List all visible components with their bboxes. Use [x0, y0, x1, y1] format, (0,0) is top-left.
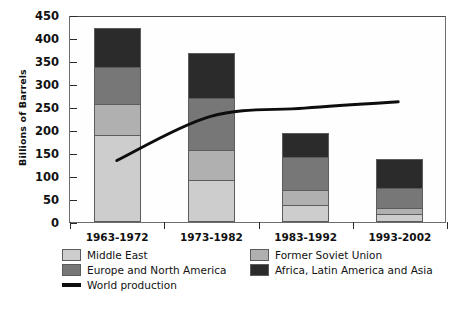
y-tick-label: 200: [35, 124, 59, 138]
legend-row: Middle EastFormer Soviet Union: [62, 249, 454, 261]
y-tick-label: 0: [51, 216, 59, 230]
y-tick-label: 450: [35, 9, 59, 23]
legend-label: Europe and North America: [87, 264, 226, 276]
legend-color-swatch: [62, 249, 81, 261]
y-tick-label: 400: [35, 32, 59, 46]
legend-item[interactable]: Former Soviet Union: [250, 249, 382, 261]
legend-label: Former Soviet Union: [275, 249, 382, 261]
y-tick-label: 150: [35, 147, 59, 161]
legend-row: World production: [62, 279, 454, 291]
legend-label: Africa, Latin America and Asia: [275, 264, 433, 276]
y-tick-label: 250: [35, 101, 59, 115]
x-tick-mark: [259, 222, 260, 229]
y-tick-label: 100: [35, 170, 59, 184]
x-tick-mark: [353, 222, 354, 229]
legend-item[interactable]: Europe and North America: [62, 264, 250, 276]
x-tick-label: 1993-2002: [340, 231, 460, 243]
legend-color-swatch: [250, 264, 269, 276]
y-tick-label: 50: [43, 193, 59, 207]
legend-label: Middle East: [87, 249, 148, 261]
legend-item[interactable]: Africa, Latin America and Asia: [250, 264, 433, 276]
y-tick-label: 350: [35, 55, 59, 69]
legend-color-swatch: [250, 249, 269, 261]
x-tick-mark: [70, 222, 71, 229]
x-tick-mark: [447, 222, 448, 229]
y-axis-title: Billions of Barrels: [17, 48, 28, 188]
legend-label: World production: [87, 279, 177, 291]
x-tick-mark: [164, 222, 165, 229]
plot-area: 050100150200250300350400450 1963-1972197…: [69, 16, 446, 223]
legend-row: Europe and North AmericaAfrica, Latin Am…: [62, 264, 454, 276]
oil-reserves-chart-figure: Billions of Barrels 05010015020025030035…: [0, 0, 463, 312]
y-tick-mark: [70, 223, 77, 224]
world-production-path: [117, 102, 398, 161]
legend-item[interactable]: World production: [62, 279, 250, 291]
world-production-line: [70, 17, 445, 222]
legend-color-swatch: [62, 264, 81, 276]
legend-line-swatch: [62, 283, 81, 287]
y-tick-label: 300: [35, 78, 59, 92]
legend-item[interactable]: Middle East: [62, 249, 250, 261]
chart-legend: Middle EastFormer Soviet UnionEurope and…: [62, 249, 454, 294]
